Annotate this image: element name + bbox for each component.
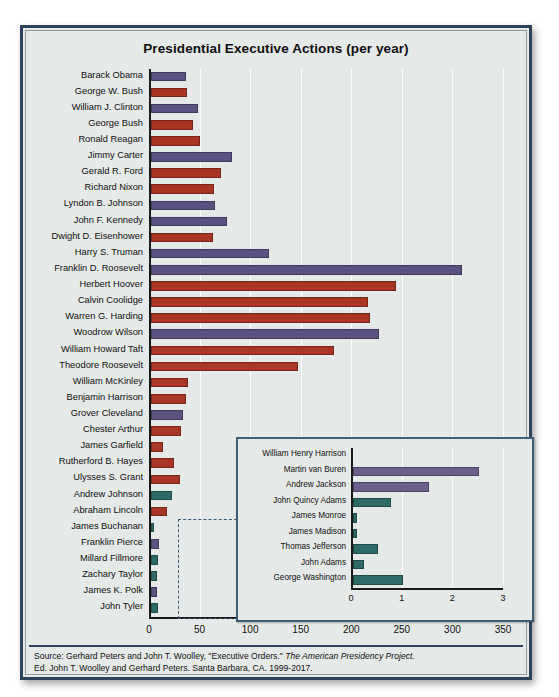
- bar-row-label: George Bush: [88, 116, 143, 131]
- inset-bar-row-label: James Monroe: [292, 508, 346, 524]
- bar: [151, 249, 269, 259]
- bar: [151, 233, 213, 243]
- bar: [151, 184, 214, 194]
- bar: [151, 217, 227, 227]
- inset-bar: [353, 498, 391, 508]
- bar-row: John F. Kennedy: [149, 214, 503, 229]
- bar: [151, 168, 221, 178]
- bar-row: Richard Nixon: [149, 182, 503, 197]
- inset-x-tick-3: 3: [500, 593, 505, 603]
- bar: [151, 603, 158, 613]
- bar-row: Herbert Hoover: [149, 279, 503, 294]
- inset-bar-row-label: Andrew Jackson: [286, 477, 346, 493]
- bar-row-label: Theodore Roosevelt: [59, 358, 143, 373]
- figure-page: Presidential Executive Actions (per year…: [0, 0, 559, 697]
- bar-row-label: Gerald R. Ford: [82, 164, 143, 179]
- inset-bar: [353, 560, 365, 570]
- inset-bar: [353, 467, 480, 477]
- bar: [151, 297, 368, 307]
- bar-row-label: Lyndon B. Johnson: [64, 196, 143, 211]
- x-tick-250: 250: [394, 624, 411, 635]
- bar: [151, 491, 172, 501]
- bar-row-label: Grover Cleveland: [71, 406, 143, 421]
- source-divider: [29, 645, 523, 647]
- inset-bar-row-label: John Adams: [301, 555, 346, 571]
- bar-row-label: Andrew Johnson: [74, 487, 143, 502]
- bar: [151, 313, 370, 323]
- x-tick-50: 50: [194, 624, 205, 635]
- bar: [151, 281, 396, 291]
- x-tick-150: 150: [292, 624, 309, 635]
- bar: [151, 201, 215, 211]
- bar-row-label: Herbert Hoover: [79, 277, 143, 292]
- bar-row: Jimmy Carter: [149, 150, 503, 165]
- bar-row-label: Zachary Taylor: [82, 567, 143, 582]
- source-line-1-text: Source: Gerhard Peters and John T. Wooll…: [34, 651, 285, 661]
- inset-x-tick-1: 1: [399, 593, 404, 603]
- inset-chart-panel: William Henry HarrisonMartin van BurenAn…: [236, 437, 534, 622]
- inset-bar-row-label: Thomas Jefferson: [281, 539, 346, 555]
- x-tick-0: 0: [146, 624, 152, 635]
- bar: [151, 362, 298, 372]
- bar-row-label: Millard Fillmore: [80, 551, 143, 566]
- inset-bar-chart-plot: William Henry HarrisonMartin van BurenAn…: [351, 448, 503, 588]
- inset-bar-row-label: George Washington: [273, 570, 346, 586]
- inset-bar-row: John Quincy Adams: [351, 495, 503, 511]
- bar-row: George W. Bush: [149, 85, 503, 100]
- bar-row: William J. Clinton: [149, 101, 503, 116]
- bar: [151, 539, 159, 549]
- x-axis-tick-labels: 050100150200250300350: [149, 624, 503, 640]
- bar-row-label: Barack Obama: [81, 68, 143, 83]
- bar-row: Ronald Reagan: [149, 133, 503, 148]
- bar: [151, 587, 157, 597]
- bar-row: Franklin D. Roosevelt: [149, 262, 503, 277]
- inset-bar-row-label: James Madison: [289, 524, 346, 540]
- bar: [151, 378, 188, 388]
- bar: [151, 458, 174, 468]
- bar: [151, 555, 158, 565]
- bar: [151, 442, 163, 452]
- bar: [151, 571, 157, 581]
- chart-figure-frame: Presidential Executive Actions (per year…: [20, 25, 532, 680]
- bar: [151, 507, 167, 517]
- inset-x-tick-2: 2: [450, 593, 455, 603]
- bar-row: Dwight D. Eisenhower: [149, 230, 503, 245]
- inset-x-tick-0: 0: [348, 593, 353, 603]
- inset-bar-row: James Madison: [351, 526, 503, 542]
- inset-gridline-3: [503, 448, 504, 588]
- bar-row-label: Franklin Pierce: [81, 535, 143, 550]
- bar-row-label: Chester Arthur: [83, 422, 143, 437]
- bar: [151, 88, 187, 98]
- bar-row-label: John Tyler: [100, 599, 143, 614]
- bar-row: Calvin Coolidge: [149, 295, 503, 310]
- bar: [151, 136, 200, 146]
- inset-bar: [353, 575, 404, 585]
- bar-row-label: Jimmy Carter: [88, 148, 143, 163]
- bar: [151, 475, 180, 485]
- inset-x-axis-line: [351, 588, 503, 590]
- inset-bar: [353, 513, 357, 523]
- bar-row-label: Ulysses S. Grant: [73, 470, 143, 485]
- bar-row: Warren G. Harding: [149, 311, 503, 326]
- bar-row-label: John F. Kennedy: [74, 213, 143, 228]
- bar-row: Grover Cleveland: [149, 407, 503, 422]
- bar-row: Woodrow Wilson: [149, 327, 503, 342]
- bar-row-label: Richard Nixon: [85, 180, 143, 195]
- bar: [151, 152, 232, 162]
- bar-row: Gerald R. Ford: [149, 166, 503, 181]
- inset-connector-dashed-box: [178, 519, 237, 619]
- x-tick-100: 100: [242, 624, 259, 635]
- bar-row-label: Warren G. Harding: [65, 309, 143, 324]
- bar-row: Harry S. Truman: [149, 246, 503, 261]
- inset-x-axis-tick-labels: 0123: [351, 593, 503, 607]
- inset-bar-row-label: Martin van Buren: [284, 462, 346, 478]
- bar-row-label: Harry S. Truman: [75, 245, 143, 260]
- bar: [151, 410, 183, 420]
- bar-row-label: James K. Polk: [84, 583, 143, 598]
- bar: [151, 120, 193, 130]
- bar-row-label: George W. Bush: [75, 84, 143, 99]
- x-tick-300: 300: [444, 624, 461, 635]
- bar-row-label: Woodrow Wilson: [73, 325, 143, 340]
- bar: [151, 329, 379, 339]
- bar-row: Benjamin Harrison: [149, 391, 503, 406]
